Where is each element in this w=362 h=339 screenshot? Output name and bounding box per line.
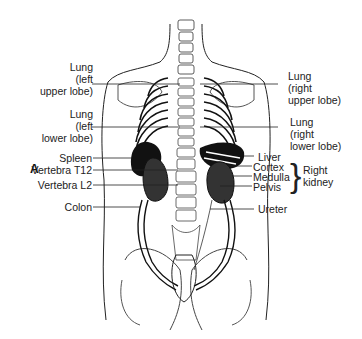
label-colon: Colon xyxy=(65,201,92,213)
label-lung-right-lower: Lung (right lower lobe) xyxy=(290,116,341,152)
label-line: upper lobe) xyxy=(40,85,93,97)
label-vertebra-l2: Vertebra L2 xyxy=(38,179,92,191)
kidney-brace-icon: } xyxy=(290,157,301,193)
label-line: Lung xyxy=(288,70,341,82)
label-spleen: Spleen xyxy=(59,152,92,164)
label-line: Right xyxy=(303,164,333,176)
label-ureter: Ureter xyxy=(258,203,287,215)
label-line: Lung xyxy=(290,116,341,128)
label-line: (right xyxy=(290,128,341,140)
label-line: lower lobe) xyxy=(42,132,93,144)
label-vertebra-t12: Vertebra T12 xyxy=(31,164,92,176)
label-lung-left-lower: Lung (left lower lobe) xyxy=(42,108,93,144)
label-lung-left-upper: Lung (left upper lobe) xyxy=(40,61,93,97)
label-line: (right xyxy=(288,82,341,94)
anatomy-figure: Lung (left upper lobe) Lung (left lower … xyxy=(0,0,362,339)
label-line: (left xyxy=(40,73,93,85)
label-line: lower lobe) xyxy=(290,140,341,152)
label-right-kidney: Right kidney xyxy=(303,164,333,188)
label-line: upper lobe) xyxy=(288,94,341,106)
label-lung-right-upper: Lung (right upper lobe) xyxy=(288,70,341,106)
label-line: kidney xyxy=(303,176,333,188)
label-line: (left xyxy=(42,120,93,132)
label-line: Lung xyxy=(42,108,93,120)
label-line: Lung xyxy=(40,61,93,73)
label-pelvis: Pelvis xyxy=(253,181,281,193)
